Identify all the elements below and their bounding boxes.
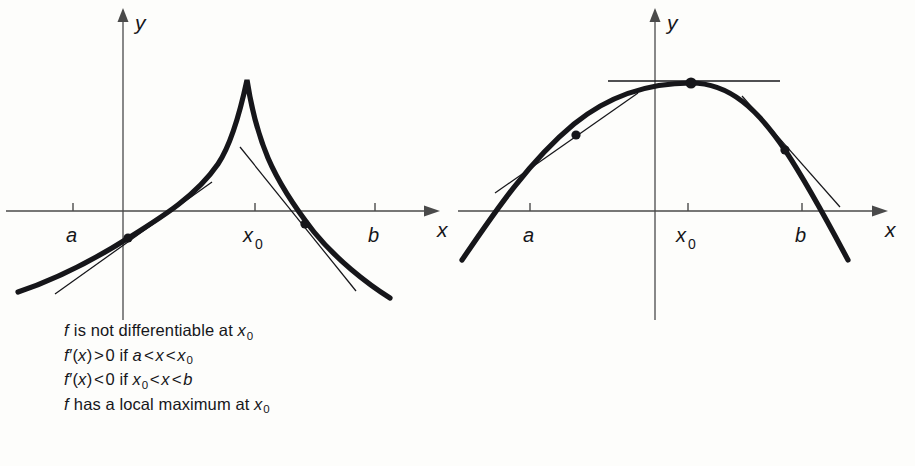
math-subscript: 0 — [246, 330, 253, 342]
left-y-axis — [118, 8, 129, 320]
math-relation: > — [92, 346, 105, 365]
left-tick-label-a: a — [66, 224, 77, 246]
math-roman: is not differentiable at — [69, 321, 237, 339]
right-tick-label-a: a — [523, 224, 534, 246]
right-point-a-side — [571, 130, 580, 139]
right-tick-label-b: b — [795, 224, 806, 246]
left-curve-cusp — [18, 80, 390, 298]
panel-left-cusp: y x a x 0 b f is not differentiable at x… — [0, 0, 460, 466]
left-tangent-line-2 — [240, 147, 356, 291]
right-graph-svg: y x a x 0 b — [440, 0, 915, 320]
caption-line-line4: f has a local maximum at x0 — [64, 392, 270, 417]
math-relation: < — [142, 346, 155, 365]
math-italic: b — [183, 370, 193, 388]
math-roman: has a local maximum at — [69, 395, 254, 413]
svg-text:0: 0 — [688, 236, 696, 252]
math-roman: 0 if — [105, 346, 132, 364]
right-tick-marks — [530, 203, 802, 211]
caption-line-line3: f′(x)<0 if x0<x<b — [64, 367, 270, 392]
left-tick-marks — [73, 203, 375, 211]
right-y-axis-label: y — [665, 11, 679, 34]
math-italic: x — [78, 346, 87, 364]
math-roman: ′( — [69, 346, 78, 364]
svg-text:x: x — [675, 224, 687, 246]
right-point-b-side — [780, 145, 789, 154]
right-tick-label-x0: x 0 — [675, 224, 696, 252]
math-subscript: 0 — [263, 403, 270, 415]
math-italic: x — [177, 346, 186, 364]
math-italic: x — [78, 370, 87, 388]
math-relation: < — [148, 370, 161, 389]
right-x-axis-label: x — [884, 218, 897, 241]
caption-line-line1: f is not differentiable at x0 — [64, 318, 270, 343]
math-roman: 0 if — [105, 370, 132, 388]
left-graph-svg: y x a x 0 b — [0, 0, 460, 320]
math-italic: x — [161, 370, 170, 388]
left-y-axis-label: y — [133, 11, 147, 34]
svg-text:0: 0 — [255, 236, 263, 252]
right-point-maximum — [685, 77, 696, 88]
math-subscript: 0 — [186, 354, 193, 366]
caption-line-line2: f′(x)>0 if a<x<x0 — [64, 343, 270, 368]
left-point-b-side — [300, 219, 309, 228]
panel-right-parabola: y x a x 0 b f′(x0) = 0f′(x)>0 if a<x<x0f… — [440, 0, 915, 466]
svg-text:x: x — [242, 224, 254, 246]
math-relation: < — [164, 346, 177, 365]
math-relation: < — [170, 370, 183, 389]
right-y-axis — [650, 8, 661, 320]
math-italic: x — [254, 395, 263, 413]
math-subscript: 0 — [141, 379, 148, 391]
math-relation: < — [92, 370, 105, 389]
left-point-a-side — [123, 233, 132, 242]
left-tick-label-x0: x 0 — [242, 224, 263, 252]
math-italic: a — [133, 346, 143, 364]
math-roman: ′( — [69, 370, 78, 388]
math-italic: x — [155, 346, 164, 364]
right-tangent-line-positive — [495, 93, 638, 193]
figure-container: y x a x 0 b f is not differentiable at x… — [0, 0, 915, 466]
left-caption-block: f is not differentiable at x0f′(x)>0 if … — [64, 318, 270, 416]
left-tick-label-b: b — [368, 224, 379, 246]
